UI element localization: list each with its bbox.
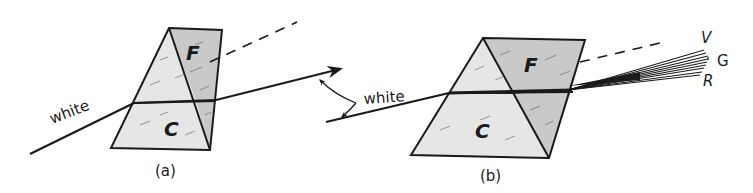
- spectrum-label-green: G: [717, 52, 729, 70]
- flint-label-a: F: [186, 41, 200, 65]
- undeviated-path-a: [210, 22, 297, 62]
- caption-a: (a): [155, 162, 176, 180]
- ray-label-a: white: [47, 96, 92, 128]
- emergent-ray-a: [216, 69, 340, 100]
- caption-b: (b): [480, 167, 501, 185]
- diagram-canvas: white F C (a): [0, 0, 753, 193]
- deviation-angle-indicator: [320, 80, 356, 117]
- undeviated-path-b: [580, 43, 660, 62]
- spectrum-label-red: R: [703, 72, 713, 90]
- crown-label-b: C: [475, 119, 490, 143]
- flint-label-b: F: [524, 53, 538, 77]
- ray-label-b: white: [363, 87, 405, 108]
- panel-b: white F C V G R (b): [326, 29, 729, 185]
- spectrum-label-violet: V: [701, 29, 713, 47]
- panel-a: white F C (a): [30, 22, 340, 180]
- crown-label-a: C: [164, 117, 179, 141]
